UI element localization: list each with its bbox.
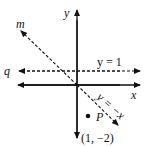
point-p-label: P xyxy=(95,110,104,124)
line-q-label: q xyxy=(4,64,10,78)
line-m xyxy=(21,31,77,85)
point-p-coordinates: (1, −2) xyxy=(81,131,114,145)
x-axis-label: x xyxy=(130,88,137,102)
line-m-label: m xyxy=(16,17,25,31)
y-axis-label: y xyxy=(63,6,70,20)
coordinate-diagram: y x q y = 1 m y = −x P (1, −2) xyxy=(0,0,154,146)
line-q-equation: y = 1 xyxy=(97,55,122,69)
point-p-dot xyxy=(86,114,91,119)
